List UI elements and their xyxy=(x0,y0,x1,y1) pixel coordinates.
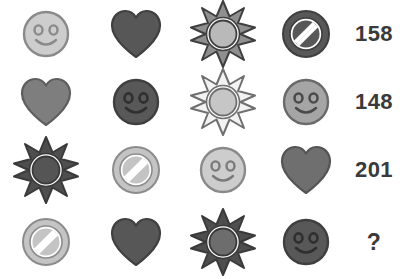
smiley-face-icon xyxy=(278,214,334,270)
result-value-row-1: 158 xyxy=(346,23,402,45)
symbol-puzzle-grid: 158 xyxy=(0,0,402,279)
puzzle-cell-r4c2 xyxy=(92,205,180,279)
puzzle-result-r3: 201 xyxy=(346,135,402,205)
smiley-face-icon xyxy=(108,74,164,130)
puzzle-cell-r1c2 xyxy=(92,0,180,68)
puzzle-cell-r1c1 xyxy=(0,0,92,68)
heart-icon xyxy=(278,144,334,196)
result-value-row-3: 201 xyxy=(346,159,402,181)
puzzle-cell-r3c3 xyxy=(180,135,266,205)
puzzle-cell-r3c1 xyxy=(0,135,92,205)
puzzle-cell-r1c3 xyxy=(180,0,266,68)
sun-star-icon xyxy=(188,207,258,277)
sun-star-icon xyxy=(188,0,258,69)
puzzle-cell-r1c4 xyxy=(266,0,346,68)
smiley-face-icon xyxy=(195,142,251,198)
prohibition-sign-icon xyxy=(109,143,163,197)
puzzle-cell-r2c2 xyxy=(92,68,180,135)
sun-star-icon xyxy=(188,67,258,137)
puzzle-cell-r4c3 xyxy=(180,205,266,279)
sun-star-icon xyxy=(11,135,81,205)
puzzle-cell-r3c2 xyxy=(92,135,180,205)
puzzle-cell-r3c4 xyxy=(266,135,346,205)
result-value-row-2: 148 xyxy=(346,91,402,113)
puzzle-cell-r2c4 xyxy=(266,68,346,135)
puzzle-result-r1: 158 xyxy=(346,0,402,68)
puzzle-result-r2: 148 xyxy=(346,68,402,135)
puzzle-result-r4: ? xyxy=(346,205,402,279)
puzzle-cell-r4c4 xyxy=(266,205,346,279)
prohibition-sign-icon xyxy=(279,7,333,61)
heart-icon xyxy=(18,76,74,128)
puzzle-grid: 158 xyxy=(0,0,402,279)
heart-icon xyxy=(108,8,164,60)
smiley-face-icon xyxy=(18,6,74,62)
smiley-face-icon xyxy=(278,74,334,130)
result-value-row-4: ? xyxy=(346,231,402,254)
puzzle-cell-r2c1 xyxy=(0,68,92,135)
puzzle-cell-r2c3 xyxy=(180,68,266,135)
puzzle-cell-r4c1 xyxy=(0,205,92,279)
prohibition-sign-icon xyxy=(19,215,73,269)
heart-icon xyxy=(108,216,164,268)
